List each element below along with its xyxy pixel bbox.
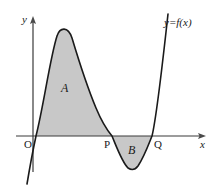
graph-canvas: y x O P Q A B y=f(x)	[0, 0, 212, 190]
point-q-label: Q	[154, 138, 162, 150]
region-b-label: B	[128, 143, 136, 157]
region-a-label: A	[60, 81, 69, 95]
y-axis-label: y	[21, 13, 27, 25]
math-figure: y x O P Q A B y=f(x)	[0, 0, 212, 190]
origin-label: O	[24, 138, 32, 150]
x-axis-label: x	[199, 138, 205, 150]
curve-equation-label: y=f(x)	[163, 16, 192, 29]
point-p-label: P	[104, 138, 110, 150]
